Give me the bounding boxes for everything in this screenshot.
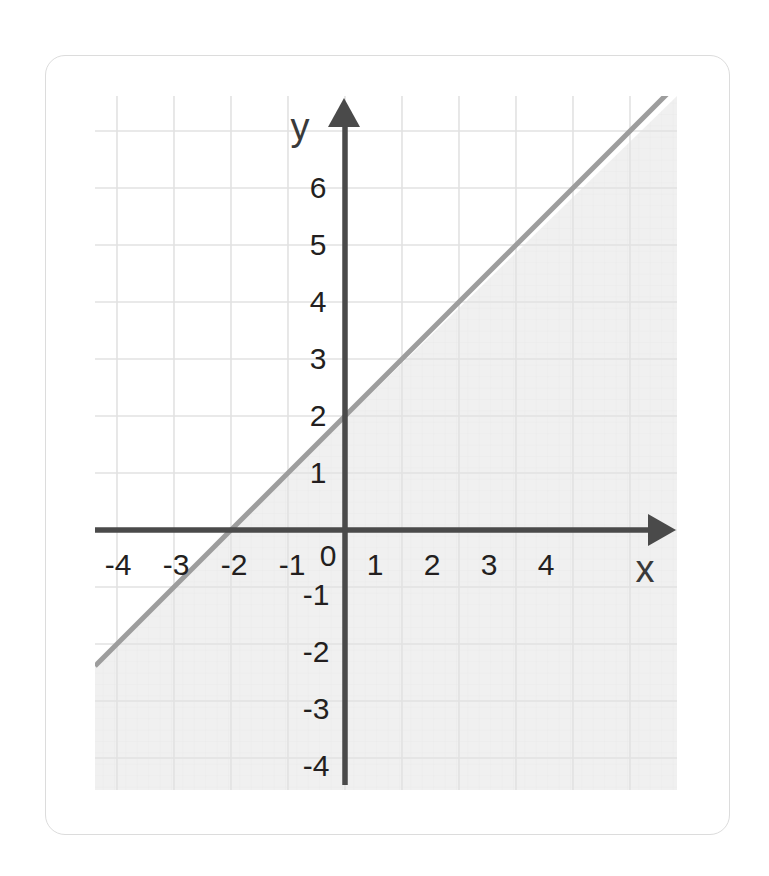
y-tick-label-pos2: 2: [310, 399, 327, 432]
y-tick-label-pos6: 6: [310, 171, 327, 204]
y-tick-label-neg1: -1: [303, 578, 330, 611]
y-tick-label-neg2: -2: [303, 635, 330, 668]
x-tick-label-pos1: 1: [367, 548, 384, 581]
coordinate-plane-plot: y x -4 -3 -2 -1 0 1 2 3 4 6 5 4 3 2 1 -1…: [0, 0, 769, 876]
x-tick-label-neg2: -2: [221, 548, 248, 581]
y-tick-label-pos5: 5: [310, 228, 327, 261]
x-tick-label-neg3: -3: [163, 548, 190, 581]
x-tick-label-origin: 0: [320, 539, 337, 572]
y-tick-label-pos4: 4: [310, 285, 327, 318]
x-tick-label-pos2: 2: [424, 548, 441, 581]
y-tick-label-pos3: 3: [310, 342, 327, 375]
y-tick-label-neg4: -4: [303, 749, 330, 782]
y-axis-name-label: y: [291, 106, 310, 148]
figure-root: y x -4 -3 -2 -1 0 1 2 3 4 6 5 4 3 2 1 -1…: [0, 0, 769, 876]
y-tick-label-neg3: -3: [303, 692, 330, 725]
x-tick-label-neg4: -4: [105, 548, 132, 581]
x-tick-label-neg1: -1: [279, 548, 306, 581]
x-tick-label-pos3: 3: [481, 548, 498, 581]
x-axis-name-label: x: [636, 548, 655, 590]
y-axis-arrowhead: [328, 98, 360, 127]
shaded-inequality-region: [95, 96, 677, 790]
x-tick-label-pos4: 4: [538, 548, 555, 581]
y-tick-label-pos1: 1: [310, 456, 327, 489]
